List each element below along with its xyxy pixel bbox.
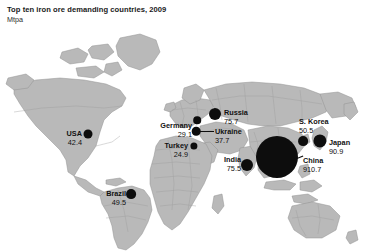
label-turkey: Turkey24.9 bbox=[165, 141, 188, 159]
country-name-russia: Russia bbox=[224, 108, 248, 117]
country-name-china: China bbox=[303, 156, 323, 165]
country-value-china: 910.7 bbox=[303, 165, 323, 174]
bubble-russia bbox=[209, 108, 221, 120]
label-usa: USA42.4 bbox=[67, 129, 82, 147]
label-china: China910.7 bbox=[303, 156, 323, 174]
bubble-brazil bbox=[126, 189, 136, 199]
country-name-brazil: Brazil bbox=[106, 189, 126, 198]
leader-line bbox=[200, 131, 214, 132]
iron-ore-demand-bubble-map: Top ten iron ore demanding countries, 20… bbox=[0, 0, 368, 252]
bubble-s-korea bbox=[298, 136, 308, 146]
country-name-s-korea: S. Korea bbox=[299, 117, 329, 126]
chart-unit-label: Mtpa bbox=[7, 15, 166, 25]
country-value-russia: 75.7 bbox=[224, 117, 248, 126]
country-value-s-korea: 50.5 bbox=[299, 126, 329, 135]
country-value-brazil: 49.5 bbox=[106, 198, 126, 207]
country-value-germany: 29.1 bbox=[160, 130, 192, 139]
bubble-india bbox=[241, 159, 253, 171]
country-value-turkey: 24.9 bbox=[165, 150, 188, 159]
bubble-germany bbox=[193, 116, 201, 124]
country-name-japan: Japan bbox=[329, 138, 350, 147]
label-germany: Germany29.1 bbox=[160, 121, 192, 139]
country-value-usa: 42.4 bbox=[67, 138, 82, 147]
bubble-china bbox=[256, 136, 298, 178]
label-japan: Japan90.9 bbox=[329, 138, 350, 156]
label-russia: Russia75.7 bbox=[224, 108, 248, 126]
page-title: Top ten iron ore demanding countries, 20… bbox=[7, 5, 166, 15]
country-value-japan: 90.9 bbox=[329, 147, 350, 156]
country-value-ukraine: 37.7 bbox=[215, 136, 242, 145]
title-block: Top ten iron ore demanding countries, 20… bbox=[7, 5, 166, 25]
bubble-ukraine bbox=[192, 127, 201, 136]
country-name-turkey: Turkey bbox=[165, 141, 188, 150]
country-name-ukraine: Ukraine bbox=[215, 127, 242, 136]
country-name-germany: Germany bbox=[160, 121, 192, 130]
bubble-usa bbox=[84, 130, 93, 139]
label-ukraine: Ukraine37.7 bbox=[215, 127, 242, 145]
country-value-india: 75.5 bbox=[224, 164, 241, 173]
country-name-india: India bbox=[224, 155, 241, 164]
label-brazil: Brazil49.5 bbox=[106, 189, 126, 207]
label-india: India75.5 bbox=[224, 155, 241, 173]
label-s-korea: S. Korea50.5 bbox=[299, 117, 329, 135]
country-name-usa: USA bbox=[67, 129, 82, 138]
